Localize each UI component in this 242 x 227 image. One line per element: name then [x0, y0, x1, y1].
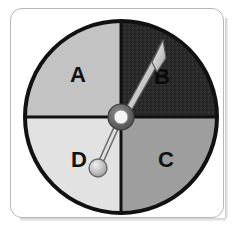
hub-inner — [114, 110, 128, 124]
sector-label-d: D — [71, 147, 87, 172]
spinner-wheel: A B C D — [0, 0, 242, 227]
sector-label-a: A — [70, 62, 86, 87]
spinner-figure: A B C D — [0, 0, 242, 227]
needle-tail-knob — [89, 159, 107, 177]
sector-label-c: C — [158, 147, 174, 172]
